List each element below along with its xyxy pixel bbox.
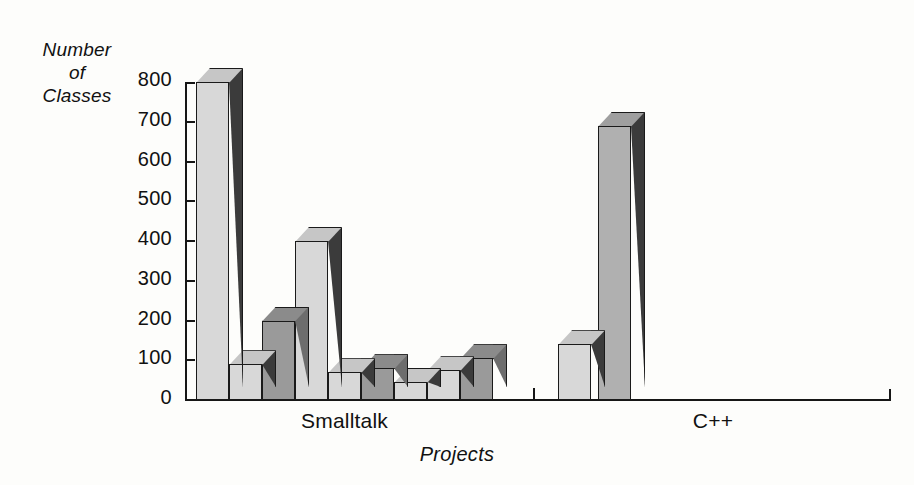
y-axis-tick-200 (186, 320, 195, 322)
y-axis-tick-label-0: 0 (112, 386, 172, 409)
plot-area: 8007006005004003002001000 SmalltalkC++ (0, 0, 914, 485)
y-axis-tick-700 (186, 121, 195, 123)
bar-cpp-2 (598, 112, 645, 400)
y-axis-tick-500 (186, 200, 195, 202)
x-axis-group-separator-tick (533, 388, 535, 401)
y-axis-tick-600 (186, 161, 195, 163)
x-axis-group-label-cpp: C++ (653, 409, 773, 433)
x-axis-group-label-smalltalk: Smalltalk (285, 409, 405, 433)
y-axis-tick-300 (186, 280, 195, 282)
y-axis-tick-label-200: 200 (112, 307, 172, 330)
y-axis-tick-label-300: 300 (112, 267, 172, 290)
bar-smalltalk-1 (196, 68, 243, 400)
y-axis-tick-label-500: 500 (112, 187, 172, 210)
y-axis-tick-label-100: 100 (112, 346, 172, 369)
y-axis-tick-label-400: 400 (112, 227, 172, 250)
x-axis-end-tick (889, 389, 891, 401)
x-axis-title: Projects (0, 443, 914, 466)
y-axis-tick-label-600: 600 (112, 148, 172, 171)
bar-side-face (631, 112, 645, 387)
bar-side-face (229, 68, 243, 387)
y-axis-tick-400 (186, 240, 195, 242)
bar-side-face (328, 227, 342, 387)
y-axis-tick-0 (186, 399, 195, 401)
y-axis-tick-100 (186, 359, 195, 361)
bar-cpp-1 (558, 330, 605, 400)
y-axis-tick-label-800: 800 (112, 68, 172, 91)
chart-figure: Number of Classes 8007006005004003002001… (0, 0, 914, 485)
bar-front-face (558, 344, 591, 400)
bar-front-face (196, 82, 229, 400)
y-axis-tick-label-700: 700 (112, 108, 172, 131)
y-axis-tick-800 (186, 82, 195, 84)
